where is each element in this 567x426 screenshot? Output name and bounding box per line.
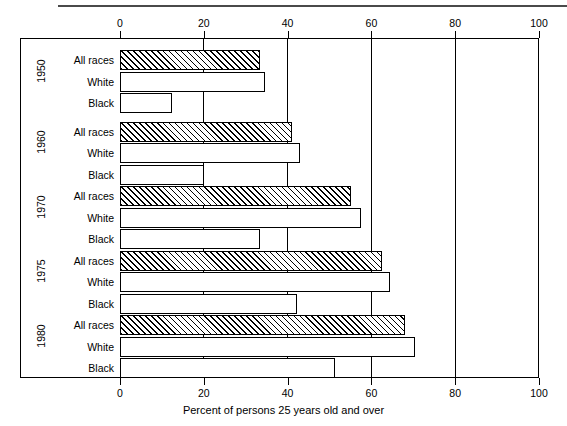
tick-label-bot-40: 40 [268, 387, 308, 399]
tick-label-top-20: 20 [184, 17, 224, 29]
row-label-1950-white: White [28, 76, 114, 88]
row-label-1970-all-races: All races [28, 190, 114, 202]
tick-label-bot-0: 0 [100, 387, 140, 399]
chart-figure: 002020404060608080100100 1950All racesWh… [0, 0, 567, 426]
bar-1980-white [120, 337, 415, 357]
header-rule [58, 5, 567, 7]
tick-label-bot-100: 100 [519, 387, 559, 399]
tick-label-bot-80: 80 [435, 387, 475, 399]
bar-1970-white [120, 208, 361, 228]
bar-1970-all-races [120, 186, 351, 206]
row-label-1975-white: White [28, 276, 114, 288]
tick-label-top-80: 80 [435, 17, 475, 29]
tick-label-top-100: 100 [519, 17, 559, 29]
row-label-1980-black: Black [28, 362, 114, 374]
bar-1950-black [120, 93, 172, 113]
bar-1970-black [120, 229, 260, 249]
bar-1975-white [120, 272, 390, 292]
bar-1950-all-races [120, 50, 260, 70]
tick-label-top-40: 40 [268, 17, 308, 29]
tick-top-80 [455, 31, 456, 38]
tick-label-top-60: 60 [351, 17, 391, 29]
row-label-1970-black: Black [28, 233, 114, 245]
row-label-1980-white: White [28, 341, 114, 353]
bar-1960-all-races [120, 122, 292, 142]
tick-top-20 [204, 31, 205, 38]
row-label-1970-white: White [28, 212, 114, 224]
tick-bot-80 [455, 378, 456, 385]
tick-label-top-0: 0 [100, 17, 140, 29]
tick-bot-20 [204, 378, 205, 385]
bar-1975-black [120, 294, 297, 314]
row-label-1975-all-races: All races [28, 255, 114, 267]
tick-label-bot-20: 20 [184, 387, 224, 399]
tick-bot-40 [288, 378, 289, 385]
tick-bot-100 [539, 378, 540, 385]
bar-1975-all-races [120, 251, 382, 271]
tick-top-40 [288, 31, 289, 38]
tick-label-bot-60: 60 [351, 387, 391, 399]
tick-bot-60 [371, 378, 372, 385]
tick-top-60 [371, 31, 372, 38]
row-label-1960-all-races: All races [28, 126, 114, 138]
x-axis-title: Percent of persons 25 years old and over [0, 404, 567, 416]
row-label-1960-black: Black [28, 169, 114, 181]
bar-1960-black [120, 165, 204, 185]
tick-top-100 [539, 31, 540, 38]
row-label-1950-black: Black [28, 97, 114, 109]
bar-1960-white [120, 143, 300, 163]
row-label-1980-all-races: All races [28, 319, 114, 331]
bar-1950-white [120, 72, 265, 92]
row-label-1950-all-races: All races [28, 54, 114, 66]
row-label-1960-white: White [28, 147, 114, 159]
tick-top-0 [120, 31, 121, 38]
gridline-80 [455, 38, 456, 378]
bar-1980-all-races [120, 315, 405, 335]
tick-bot-0 [120, 378, 121, 385]
bar-1980-black [120, 358, 335, 378]
row-label-1975-black: Black [28, 298, 114, 310]
